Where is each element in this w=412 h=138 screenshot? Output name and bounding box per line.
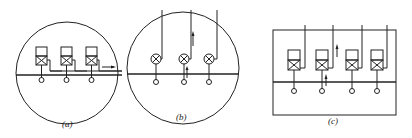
diagram-figure: (a) (b) — [0, 0, 412, 138]
panel-a-unit — [86, 47, 122, 83]
panel-b: (b) — [127, 10, 239, 124]
panel-c-unit — [316, 25, 333, 94]
panel-a: (a) — [16, 22, 122, 129]
panel-b-caption: (b) — [176, 112, 187, 122]
panel-a-caption: (a) — [62, 119, 73, 129]
panel-a-unit — [36, 47, 62, 83]
panel-c-caption: (c) — [328, 116, 338, 126]
panel-b-boundary-circle — [127, 12, 239, 124]
panel-c-unit — [371, 25, 387, 94]
panel-c-unit — [346, 25, 362, 94]
panel-c-boundary-rect — [273, 30, 396, 115]
panel-a-unit — [61, 47, 87, 83]
panel-c: (c) — [273, 25, 396, 126]
panel-c-unit — [288, 25, 305, 94]
